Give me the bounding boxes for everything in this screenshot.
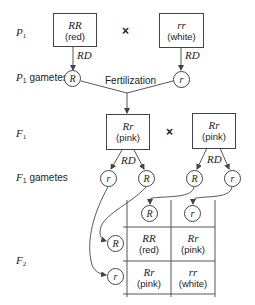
p1-parent-white: rr (white) <box>159 13 204 48</box>
p1-rd-label-right: RD <box>185 50 200 61</box>
label-f1: F1 <box>16 128 26 141</box>
genotype: RR <box>54 19 96 31</box>
fertilization-label: Fertilization <box>105 76 156 86</box>
f1-parent-1: Rr (pink) <box>106 114 150 150</box>
f1-parent-2: Rr (pink) <box>192 113 236 149</box>
p1-parent-red: RR (red) <box>53 13 97 47</box>
p1-rd-label-left: RD <box>77 50 92 61</box>
f1-rd-label-right: RD <box>207 154 222 165</box>
punnett-cell-Rr-top: Rr (pink) <box>171 227 215 255</box>
punnett-row-gamete-R: R <box>107 235 124 252</box>
label-f2: F2 <box>16 255 26 268</box>
f1-gamete-r-2: r <box>224 170 241 187</box>
f1-rd-arrow-3 <box>197 148 207 169</box>
phenotype: (pink) <box>193 131 235 142</box>
gamete-r-to-column <box>193 187 232 204</box>
genotype: Rr <box>193 119 235 131</box>
gamete-R-to-column <box>150 187 195 204</box>
punnett-column-gamete-R: R <box>141 205 158 222</box>
label-p1-gametes: P1 gametes <box>16 72 68 84</box>
f1-gamete-R-2: R <box>186 170 203 187</box>
f1-cross-symbol: × <box>166 126 173 138</box>
punnett-row-gamete-r: r <box>107 268 124 285</box>
genotype: rr <box>160 19 203 31</box>
label-p1: P1 <box>16 27 26 40</box>
punnett-cell-Rr-bottom: Rr (pink) <box>127 261 171 289</box>
f1-gamete-R-1: R <box>138 170 155 187</box>
f1-rd-label-left: RD <box>121 155 136 166</box>
phenotype: (pink) <box>107 132 149 143</box>
p1-cross-symbol: × <box>122 25 129 37</box>
punnett-cell-rr: rr (white) <box>171 261 215 289</box>
gamete-r-to-row <box>90 187 108 275</box>
punnett-cell-RR: RR (red) <box>127 227 171 255</box>
phenotype: (red) <box>54 31 96 42</box>
f1-gamete-r-1: r <box>100 170 117 187</box>
genotype: Rr <box>107 120 149 132</box>
label-f1-gametes: F1 gametes <box>16 172 68 184</box>
punnett-column-gamete-r: r <box>184 205 201 222</box>
p1-gamete-R: R <box>64 70 81 87</box>
phenotype: (white) <box>160 31 203 42</box>
p1-gamete-r: r <box>173 71 190 88</box>
